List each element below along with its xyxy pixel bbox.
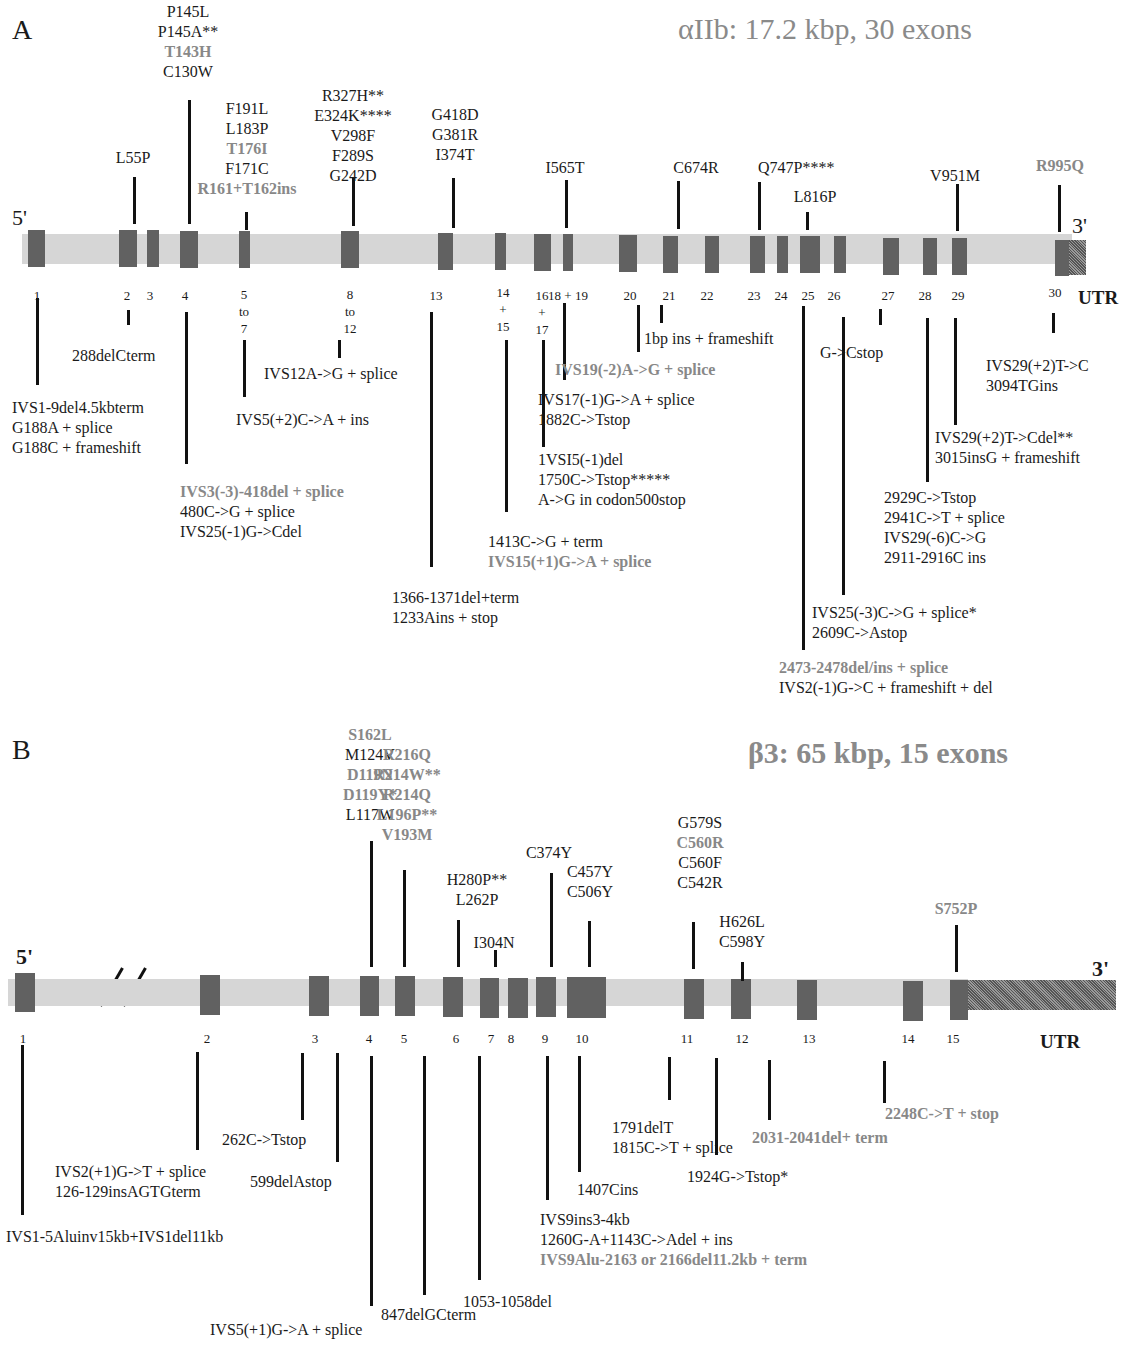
mutation-pointer-line xyxy=(403,870,406,967)
missense-mutation-group: G579SC560RC560FC542R xyxy=(676,813,723,893)
other-mutation-group: 847delGCterm xyxy=(381,1305,476,1325)
exon-number-label: 6 xyxy=(453,1032,460,1045)
mutation-label: 1260G-A+1143C->Adel + ins xyxy=(540,1230,807,1250)
mutation-label: IVS5(+1)G->A + splice xyxy=(210,1320,362,1340)
mutation-label: IVS2(+1)G->T + splice xyxy=(55,1162,206,1182)
mutation-label: L262P xyxy=(447,890,507,910)
mutation-pointer-line xyxy=(336,1053,339,1162)
utr-3prime-block xyxy=(968,980,1116,1010)
exon-block xyxy=(684,979,704,1019)
mutation-label: R214W** xyxy=(373,765,441,785)
other-mutation-group: IVS9ins3-4kb1260G-A+1143C->Adel + insIVS… xyxy=(540,1210,807,1270)
exon-block xyxy=(797,980,817,1020)
mutation-label: 847delGCterm xyxy=(381,1305,476,1325)
other-mutation-group: IVS2(+1)G->T + splice126-129insAGTGterm xyxy=(55,1162,206,1202)
missense-mutation-group: S752P xyxy=(935,899,978,919)
mutation-label: S162L xyxy=(343,725,397,745)
exon-number-label: 3 xyxy=(312,1032,319,1045)
exon-block xyxy=(508,978,528,1018)
mutation-label: 599delAstop xyxy=(250,1172,332,1192)
exon-number-label: 14 xyxy=(902,1032,915,1045)
mutation-label: I304N xyxy=(474,933,515,953)
mutation-label: R216Q xyxy=(373,745,441,765)
mutation-label: 126-129insAGTGterm xyxy=(55,1182,206,1202)
exon-number-label: 8 xyxy=(508,1032,515,1045)
missense-mutation-group: I304N xyxy=(474,933,515,953)
mutation-pointer-line xyxy=(550,873,553,967)
mutation-label: C374Y xyxy=(526,843,572,863)
mutation-label: 2031-2041del+ term xyxy=(752,1128,888,1148)
mutation-pointer-line xyxy=(741,962,744,981)
other-mutation-group: IVS1-5Aluinv15kb+IVS1del11kb xyxy=(6,1227,223,1247)
mutation-label: S752P xyxy=(935,899,978,919)
exon-number-label: 4 xyxy=(366,1032,373,1045)
mutation-label: IVS9Alu-2163 or 2166del11.2kb + term xyxy=(540,1250,807,1270)
mutation-pointer-line xyxy=(578,1056,581,1172)
exon-block xyxy=(903,981,923,1021)
other-mutation-group: 1053-1058del xyxy=(463,1292,552,1312)
mutation-label: H626L xyxy=(719,912,765,932)
mutation-label: C560R xyxy=(676,833,723,853)
missense-mutation-group: R216QR214W**R214QL196P**V193M xyxy=(373,745,441,845)
mutation-label: C598Y xyxy=(719,932,765,952)
exon-number-label: 11 xyxy=(681,1032,694,1045)
mutation-label: V193M xyxy=(373,825,441,845)
exon-block xyxy=(950,980,968,1020)
exon-number-label: 13 xyxy=(803,1032,816,1045)
mutation-label: C457Y xyxy=(567,862,613,882)
mutation-label: 2248C->T + stop xyxy=(885,1104,999,1124)
mutation-label: R214Q xyxy=(373,785,441,805)
exon-block xyxy=(200,975,220,1015)
mutation-label: C560F xyxy=(676,853,723,873)
mutation-label: L196P** xyxy=(373,805,441,825)
mutation-pointer-line xyxy=(21,1045,24,1215)
exon-number-label: 1 xyxy=(20,1032,27,1045)
other-mutation-group: 2248C->T + stop xyxy=(885,1104,999,1124)
exon-number-label: 5 xyxy=(401,1032,408,1045)
exon-block xyxy=(395,976,415,1016)
exon-number-label: 9 xyxy=(542,1032,549,1045)
missense-mutation-group: C457YC506Y xyxy=(567,862,613,902)
exon-block xyxy=(731,979,751,1019)
mutation-pointer-line xyxy=(955,925,958,972)
mutation-label: IVS9ins3-4kb xyxy=(540,1210,807,1230)
exon-block xyxy=(536,977,556,1017)
mutation-label: H280P** xyxy=(447,870,507,890)
mutation-label: 1924G->Tstop* xyxy=(687,1167,788,1187)
exon-number-label: 15 xyxy=(947,1032,960,1045)
other-mutation-group: IVS5(+1)G->A + splice xyxy=(210,1320,362,1340)
mutation-label: IVS1-5Aluinv15kb+IVS1del11kb xyxy=(6,1227,223,1247)
mutation-pointer-line xyxy=(668,1057,671,1100)
mutation-pointer-line xyxy=(370,841,373,967)
mutation-label: C506Y xyxy=(567,882,613,902)
other-mutation-group: 262C->Tstop xyxy=(222,1130,306,1150)
mutation-pointer-line xyxy=(546,1056,549,1200)
exon-block xyxy=(567,977,606,1018)
mutation-label: C542R xyxy=(676,873,723,893)
mutation-pointer-line xyxy=(768,1060,771,1120)
mutation-pointer-line xyxy=(423,1056,426,1295)
missense-mutation-group: C374Y xyxy=(526,843,572,863)
mutation-pointer-line xyxy=(457,920,460,967)
panel-b-beta3-gene-map: 123456789101112131415S162LM124VD119ND119… xyxy=(0,0,1128,1354)
mutation-pointer-line xyxy=(301,1053,304,1120)
exon-number-label: 2 xyxy=(204,1032,211,1045)
other-mutation-group: 1924G->Tstop* xyxy=(687,1167,788,1187)
exon-block xyxy=(360,976,379,1016)
mutation-label: 1407Cins xyxy=(577,1180,638,1200)
mutation-label: G579S xyxy=(676,813,723,833)
mutation-pointer-line xyxy=(588,921,591,967)
other-mutation-group: 1407Cins xyxy=(577,1180,638,1200)
missense-mutation-group: H626LC598Y xyxy=(719,912,765,952)
exon-number-label: 10 xyxy=(576,1032,589,1045)
mutation-pointer-line xyxy=(370,1056,373,1306)
mutation-pointer-line xyxy=(883,1061,886,1103)
exon-block xyxy=(15,973,35,1012)
mutation-label: 262C->Tstop xyxy=(222,1130,306,1150)
mutation-pointer-line xyxy=(478,1056,481,1280)
exon-block xyxy=(309,976,329,1016)
mutation-pointer-line xyxy=(715,1058,718,1155)
mutation-label: 1053-1058del xyxy=(463,1292,552,1312)
other-mutation-group: 2031-2041del+ term xyxy=(752,1128,888,1148)
mutation-pointer-line xyxy=(196,1052,199,1150)
